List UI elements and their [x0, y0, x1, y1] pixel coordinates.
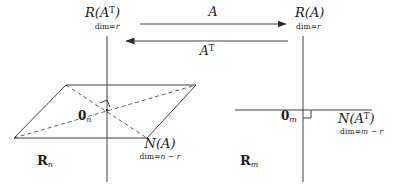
column-space-paren-close: )	[319, 5, 324, 20]
codomain-space-symbol: R	[240, 153, 251, 168]
left-origin-sub: n	[86, 115, 91, 124]
left-null-space-dim-prefix: dim	[340, 127, 355, 136]
column-space-dim: dim=r	[296, 23, 321, 31]
domain-space-symbol: R	[37, 153, 48, 168]
column-space-label: R(A)	[295, 6, 324, 19]
row-space-script: R	[85, 5, 95, 20]
null-space-arg: A	[161, 136, 170, 151]
null-space-dim: dim=n − r	[140, 153, 181, 161]
backward-map-transpose: T	[209, 43, 215, 53]
left-origin-label: 0n	[78, 107, 92, 124]
null-space-label: N(A)	[145, 137, 176, 150]
left-null-space-paren-close: )	[370, 111, 375, 126]
row-space-arg: A	[100, 5, 109, 20]
domain-space-sub: n	[48, 160, 53, 169]
null-space-dim-prefix: dim	[140, 152, 155, 161]
column-space-dim-prefix: dim	[296, 22, 311, 31]
left-null-space-arg: A	[354, 111, 363, 126]
left-origin-dot	[106, 109, 108, 111]
null-space-dim-value: n − r	[161, 152, 181, 161]
left-null-space-dim: dim=m − r	[340, 128, 383, 136]
row-space-paren-close: )	[115, 5, 120, 20]
forward-map-symbol: A	[208, 4, 217, 19]
diagram-canvas	[0, 0, 399, 189]
left-null-space-label: N(AT)	[338, 112, 375, 125]
left-null-space-dim-value: m − r	[361, 127, 383, 136]
right-origin-label: 0m	[281, 107, 297, 124]
row-space-dim: dim=r	[95, 23, 120, 31]
left-right-angle-mark	[100, 100, 110, 107]
column-space-dim-value: r	[317, 22, 321, 31]
four-fundamental-subspaces-figure: R(AT) dim=r R(A) dim=r A AT 0n N(A) dim=…	[0, 0, 399, 189]
codomain-space-label: Rm	[240, 152, 258, 169]
plane-diagonal-a	[14, 85, 196, 138]
forward-map-label: A	[208, 6, 217, 19]
null-space-paren-close: )	[170, 136, 175, 151]
right-right-angle-mark	[303, 110, 311, 118]
right-origin-sub: m	[289, 115, 297, 124]
null-space-script: N	[145, 136, 156, 151]
backward-map-label: AT	[200, 44, 215, 58]
codomain-space-sub: m	[251, 160, 259, 169]
column-space-script: R	[295, 5, 305, 20]
backward-map-symbol: A	[200, 43, 209, 58]
row-space-dim-prefix: dim	[95, 22, 110, 31]
domain-space-label: Rn	[37, 152, 53, 169]
column-space-arg: A	[310, 5, 319, 20]
row-space-dim-value: r	[116, 22, 120, 31]
left-null-space-script: N	[338, 111, 349, 126]
row-space-label: R(AT)	[85, 6, 120, 19]
